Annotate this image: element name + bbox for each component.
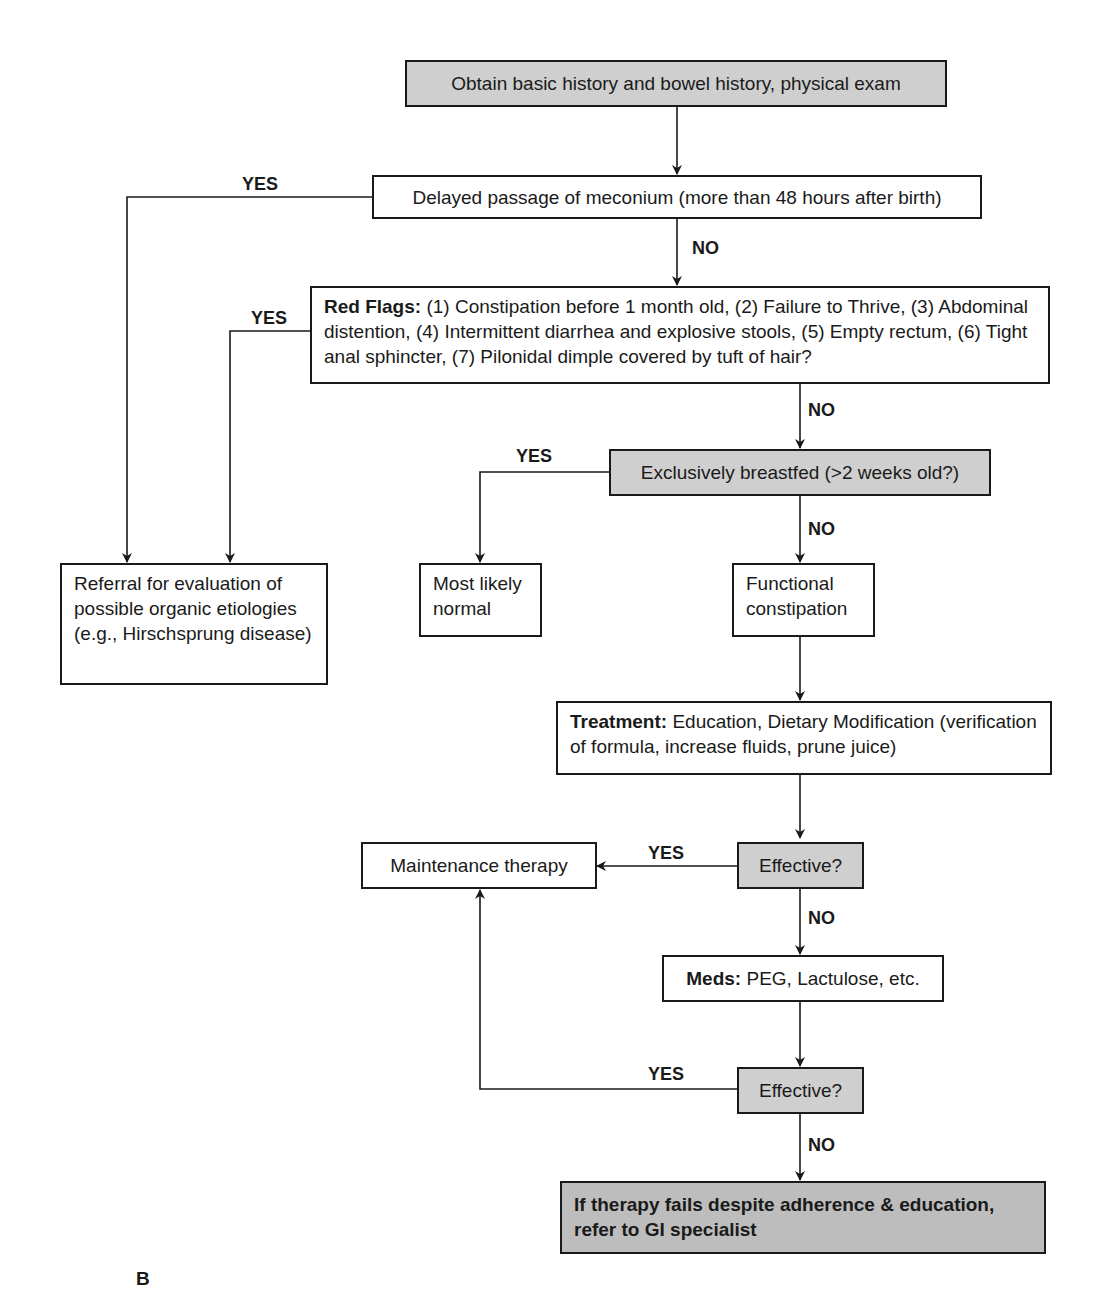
node-text: Delayed passage of meconium (more than 4… (412, 185, 941, 210)
node-text: Exclusively breastfed (>2 weeks old?) (641, 460, 959, 485)
edge-label-effective2-yes: YES (648, 1064, 684, 1085)
node-maintenance-therapy: Maintenance therapy (361, 842, 597, 889)
node-obtain-history: Obtain basic history and bowel history, … (405, 60, 947, 107)
node-effective-2: Effective? (737, 1067, 864, 1114)
node-text: Effective? (759, 1078, 842, 1103)
node-text: Obtain basic history and bowel history, … (451, 71, 901, 96)
node-referral-organic: Referral for evaluation of possible orga… (60, 563, 328, 685)
node-exclusively-breastfed: Exclusively breastfed (>2 weeks old?) (609, 449, 991, 496)
edge-label-redflags-yes: YES (251, 308, 287, 329)
edge-label-breastfed-yes: YES (516, 446, 552, 467)
edge-label-breastfed-no: NO (808, 519, 835, 540)
node-effective-1: Effective? (737, 842, 864, 889)
node-title: Red Flags: (324, 296, 421, 317)
node-functional-constipation: Functional constipation (732, 563, 875, 637)
edge-label-effective1-yes: YES (648, 843, 684, 864)
node-text: Functional constipation (746, 573, 847, 619)
edge-label-redflags-no: NO (808, 400, 835, 421)
node-text: Effective? (759, 853, 842, 878)
node-delayed-meconium: Delayed passage of meconium (more than 4… (372, 175, 982, 219)
node-text: If therapy fails despite adherence & edu… (574, 1194, 994, 1240)
edge-label-meconium-yes: YES (242, 174, 278, 195)
node-title: Meds: (686, 968, 741, 989)
node-text: (1) Constipation before 1 month old, (2)… (324, 296, 1028, 367)
edge-label-effective2-no: NO (808, 1135, 835, 1156)
node-text: Maintenance therapy (390, 853, 567, 878)
node-gi-specialist-referral: If therapy fails despite adherence & edu… (560, 1181, 1046, 1254)
node-most-likely-normal: Most likely normal (419, 563, 542, 637)
node-red-flags: Red Flags: (1) Constipation before 1 mon… (310, 286, 1050, 384)
node-text: Referral for evaluation of possible orga… (74, 573, 312, 644)
node-text: PEG, Lactulose, etc. (746, 968, 919, 989)
edge-label-meconium-no: NO (692, 238, 719, 259)
node-treatment: Treatment: Education, Dietary Modificati… (556, 701, 1052, 775)
node-meds: Meds: PEG, Lactulose, etc. (662, 955, 944, 1002)
figure-label: B (136, 1268, 150, 1290)
node-title: Treatment: (570, 711, 667, 732)
edge-label-effective1-no: NO (808, 908, 835, 929)
node-text: Most likely normal (433, 573, 522, 619)
